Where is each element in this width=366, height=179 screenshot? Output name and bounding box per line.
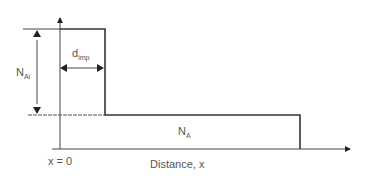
d-imp-label: dimp bbox=[72, 47, 89, 61]
x-axis-label: Distance, x bbox=[150, 158, 204, 170]
n-a-label: NA bbox=[178, 125, 191, 139]
doping-profile-diagram bbox=[0, 0, 366, 179]
n-ai-label: NAi bbox=[16, 66, 30, 80]
x-origin-label: x = 0 bbox=[48, 155, 72, 167]
